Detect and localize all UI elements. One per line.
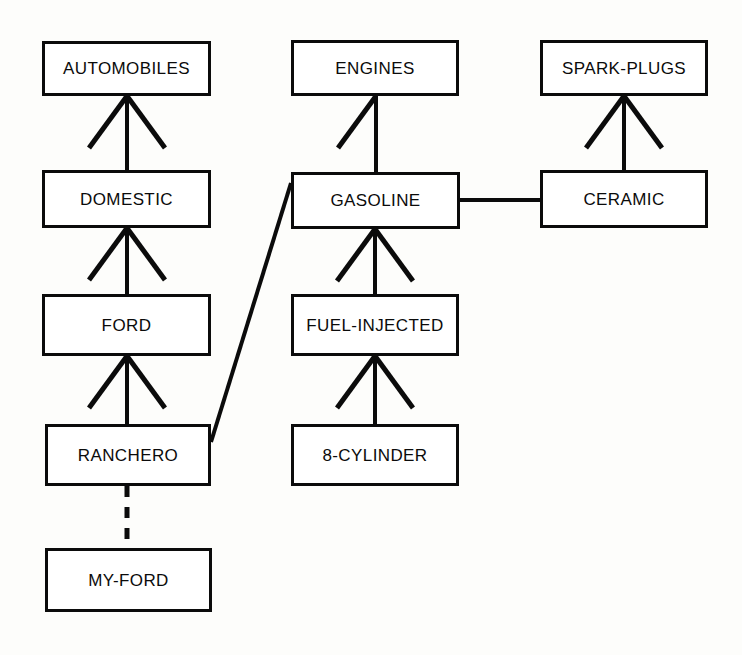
node-label-8-cylinder: 8-CYLINDER bbox=[322, 447, 427, 464]
node-ceramic[interactable]: CERAMIC bbox=[540, 170, 708, 228]
node-label-domestic: DOMESTIC bbox=[80, 191, 173, 208]
node-label-gasoline: GASOLINE bbox=[330, 192, 420, 209]
node-label-ceramic: CERAMIC bbox=[583, 191, 664, 208]
node-spark-plugs[interactable]: SPARK-PLUGS bbox=[540, 40, 708, 96]
node-automobiles[interactable]: AUTOMOBILES bbox=[42, 41, 211, 96]
node-label-my-ford: MY-FORD bbox=[88, 572, 169, 589]
node-label-engines: ENGINES bbox=[335, 60, 414, 77]
node-label-spark-plugs: SPARK-PLUGS bbox=[562, 60, 686, 77]
node-layer: AUTOMOBILESENGINESSPARK-PLUGSDOMESTICGAS… bbox=[0, 0, 742, 655]
node-ford[interactable]: FORD bbox=[42, 294, 211, 356]
node-my-ford[interactable]: MY-FORD bbox=[45, 548, 212, 612]
node-8-cylinder[interactable]: 8-CYLINDER bbox=[291, 424, 459, 486]
node-label-fuel-injected: FUEL-INJECTED bbox=[306, 317, 443, 334]
node-label-automobiles: AUTOMOBILES bbox=[63, 60, 190, 77]
node-label-ranchero: RANCHERO bbox=[78, 447, 179, 464]
node-domestic[interactable]: DOMESTIC bbox=[42, 170, 211, 228]
node-label-ford: FORD bbox=[102, 317, 152, 334]
node-fuel-injected[interactable]: FUEL-INJECTED bbox=[291, 294, 459, 356]
node-engines[interactable]: ENGINES bbox=[291, 40, 459, 96]
node-ranchero[interactable]: RANCHERO bbox=[45, 424, 211, 486]
node-gasoline[interactable]: GASOLINE bbox=[291, 172, 460, 229]
diagram-canvas: AUTOMOBILESENGINESSPARK-PLUGSDOMESTICGAS… bbox=[0, 0, 742, 655]
